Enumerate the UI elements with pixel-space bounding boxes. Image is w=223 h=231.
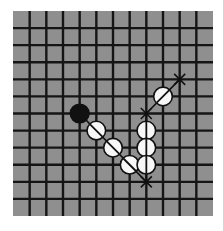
gomoku-board[interactable] (13, 11, 213, 216)
board-grid (13, 11, 213, 216)
game-stage (0, 0, 223, 231)
black-stone[interactable] (70, 104, 89, 123)
